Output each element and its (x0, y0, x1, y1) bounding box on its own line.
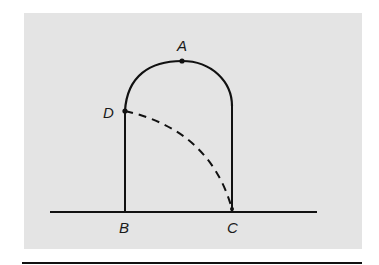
dashed-curve-d-to-c (125, 111, 232, 209)
point-d-dot (122, 108, 127, 113)
label-a: A (176, 37, 187, 54)
label-d: D (103, 104, 114, 121)
point-c-dot (230, 207, 234, 211)
point-a-dot (179, 58, 184, 63)
arch-curve (125, 61, 232, 111)
label-c: C (227, 219, 238, 236)
label-b: B (119, 219, 129, 236)
geometry-diagram: A D B C (0, 0, 379, 265)
bottom-rule (22, 262, 362, 264)
